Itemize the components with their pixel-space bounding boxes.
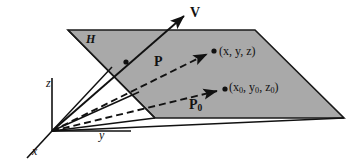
axis-x-label: x: [32, 145, 37, 157]
axis-z-label: z: [46, 77, 51, 89]
point-y0-subscript: 0: [255, 86, 259, 95]
vector-p-label: P: [154, 55, 163, 69]
point-x0y0z0-label: (x0, y0, z0): [229, 81, 279, 93]
vector-v-point-dot: [123, 59, 128, 64]
axis-x: [27, 131, 52, 158]
point-x0y0z0-close: ): [275, 80, 279, 94]
point-x0y0z0-open: (x: [229, 80, 239, 94]
vector-p0-label-subscript: 0: [198, 103, 203, 113]
vector-p0-endpoint-dot: [222, 86, 227, 91]
vector-v-label: V: [190, 6, 200, 20]
point-xyz-label: (x, y, z): [219, 45, 256, 57]
point-x0y0z0-mid2: , z: [259, 80, 270, 94]
axis-y-label: y: [99, 129, 104, 141]
vector-p0-label: P0: [189, 98, 202, 112]
figure-container: V H P P0 (x, y, z) (x0, y0, z0) z y x: [0, 0, 358, 162]
plane-h-label: H: [86, 33, 95, 45]
ray-to-plane-top-left: [52, 67, 112, 131]
vector-p-endpoint-dot: [211, 48, 216, 53]
point-x0-subscript: 0: [239, 86, 243, 95]
point-x0y0z0-mid1: , y: [243, 80, 255, 94]
coordinate-axes: [27, 78, 131, 158]
vector-p0-label-base: P: [189, 97, 198, 112]
point-z0-subscript: 0: [270, 86, 274, 95]
diagram-canvas: [0, 0, 358, 162]
